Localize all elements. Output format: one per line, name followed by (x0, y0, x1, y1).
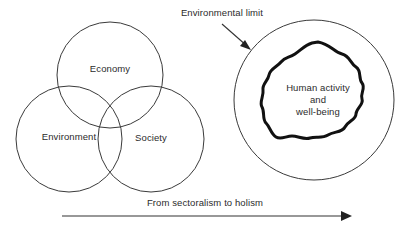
venn-label-environment: Environment (42, 131, 96, 143)
human-activity-line-2: and (310, 94, 326, 105)
diagram-canvas: Economy Environment Society Environmenta… (0, 0, 413, 234)
venn-circle-economy (57, 22, 163, 128)
environmental-limit-label: Environmental limit (181, 7, 263, 19)
venn-label-society: Society (135, 132, 167, 144)
human-activity-line-1: Human activity (286, 82, 350, 93)
progression-caption: From sectoralism to holism (147, 197, 263, 209)
annotation-arrow (222, 24, 251, 50)
progression-arrow (62, 211, 352, 221)
human-activity-label: Human activity and well-being (286, 82, 350, 118)
human-activity-line-3: well-being (296, 106, 340, 117)
venn-label-economy: Economy (90, 63, 130, 75)
